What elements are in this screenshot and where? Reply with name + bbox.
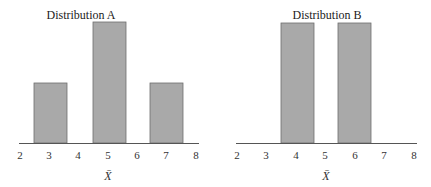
distribution-a-tick-3: 3	[46, 149, 52, 161]
distribution-b-xlabel: X̄	[321, 169, 330, 183]
distribution-a-bar-7	[150, 83, 183, 143]
distribution-b-tick-3: 3	[263, 149, 269, 161]
distribution-a-tick-2: 2	[17, 149, 23, 161]
distribution-b-title: Distribution B	[292, 8, 361, 22]
distribution-a-tick-8: 8	[193, 149, 199, 161]
distribution-b-tick-5: 5	[322, 149, 328, 161]
distribution-a-title: Distribution A	[46, 8, 115, 22]
distribution-b-tick-4: 4	[293, 149, 299, 161]
distribution-a-xlabel: X̄	[103, 169, 112, 183]
distribution-b-tick-2: 2	[234, 149, 240, 161]
distribution-b-tick-8: 8	[411, 149, 417, 161]
distribution-a-chart: Distribution A 2 3 4 5 6 7 8 X̄	[17, 8, 199, 183]
distribution-a-tick-6: 6	[134, 149, 140, 161]
distribution-b-chart: Distribution B 2 3 4 5 6 7 8 X̄	[234, 8, 417, 183]
distribution-a-tick-7: 7	[163, 149, 169, 161]
distribution-a-tick-4: 4	[75, 149, 81, 161]
charts-canvas: Distribution A 2 3 4 5 6 7 8 X̄ Distribu…	[0, 0, 431, 187]
distribution-b-bar-6	[338, 23, 371, 143]
distribution-b-tick-7: 7	[381, 149, 387, 161]
distribution-b-tick-6: 6	[352, 149, 358, 161]
distribution-a-tick-5: 5	[105, 149, 111, 161]
distribution-b-bar-4	[281, 23, 314, 143]
distribution-a-bar-3	[34, 83, 67, 143]
distribution-a-bar-5	[93, 22, 126, 143]
